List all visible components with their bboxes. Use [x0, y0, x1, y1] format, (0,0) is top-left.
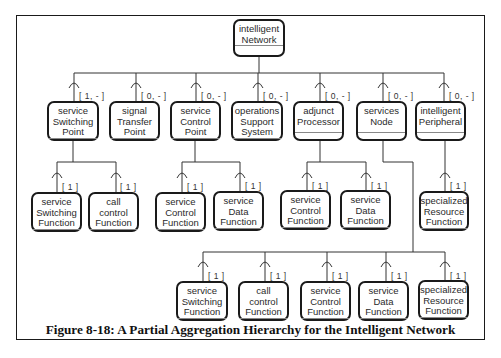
node-attributes — [233, 138, 281, 140]
node-label: adjunct Processor — [295, 103, 342, 132]
node-sn-service-switching-function[interactable]: service Switching Function — [176, 281, 228, 321]
node-ssp-call-control-function[interactable]: call control Function — [88, 192, 139, 232]
node-intelligent-network[interactable]: intelligent Network — [233, 19, 285, 57]
multiplicity-label: [ 1 ] — [332, 271, 349, 281]
node-service-control-point[interactable]: service Control Point — [170, 101, 221, 141]
node-label: service Data Function — [360, 283, 407, 318]
node-label: intelligent Peripheral — [417, 103, 464, 132]
node-label: signal Transfer Point — [111, 103, 158, 138]
node-sn-service-data-function[interactable]: service Data Function — [358, 281, 409, 321]
node-attributes — [358, 132, 405, 139]
node-sn-specialized-resource-function[interactable]: specialized Resource Function — [418, 280, 469, 320]
node-attributes — [417, 132, 464, 139]
figure-caption: Figure 8-18: A Partial Aggregation Hiera… — [16, 322, 485, 338]
multiplicity-label: [ 0, - ] — [141, 91, 167, 101]
multiplicity-label: [ 0, - ] — [325, 91, 351, 101]
node-label: specialized Resource Function — [421, 193, 467, 228]
node-attributes — [295, 132, 342, 139]
node-ap-service-control-function[interactable]: service Control Function — [280, 190, 331, 230]
node-attributes — [111, 138, 158, 140]
node-attributes — [33, 229, 80, 231]
node-label: service Control Function — [302, 283, 349, 318]
node-service-switching-point[interactable]: service Switching Point — [47, 101, 99, 141]
node-label: operations Support System — [233, 103, 281, 138]
node-label: service Switching Function — [33, 194, 80, 229]
node-attributes — [215, 228, 262, 230]
node-attributes — [49, 138, 97, 140]
node-intelligent-peripheral[interactable]: intelligent Peripheral — [415, 101, 466, 141]
node-attributes — [172, 138, 219, 140]
multiplicity-label: [ 1 ] — [208, 271, 225, 281]
multiplicity-label: [ 1 ] — [270, 271, 287, 281]
node-label: service Switching Point — [49, 103, 97, 138]
multiplicity-label: [ 0, - ] — [201, 91, 227, 101]
node-operations-support-system[interactable]: operations Support System — [231, 101, 283, 141]
node-ap-service-data-function[interactable]: service Data Function — [340, 190, 391, 230]
node-attributes — [240, 318, 287, 320]
node-label: specialized Resource Function — [420, 282, 467, 317]
node-attributes — [342, 227, 389, 229]
node-label: service Data Function — [342, 192, 389, 227]
node-label: service Control Point — [172, 103, 219, 138]
node-scp-service-control-function[interactable]: service Control Function — [155, 192, 206, 232]
node-scp-service-data-function[interactable]: service Data Function — [213, 191, 264, 231]
node-signal-transfer-point[interactable]: signal Transfer Point — [109, 101, 160, 141]
node-label: call control Function — [90, 194, 137, 229]
node-attributes — [157, 229, 204, 231]
node-attributes — [420, 317, 467, 319]
multiplicity-label: [ 0, - ] — [263, 91, 289, 101]
multiplicity-label: [ 1 ] — [450, 181, 467, 191]
node-label: service Switching Function — [178, 283, 226, 318]
multiplicity-label: [ 1 ] — [62, 182, 79, 192]
multiplicity-label: [ 1, - ] — [79, 91, 105, 101]
node-attributes — [421, 228, 467, 230]
node-label: intelligent Network — [235, 21, 283, 45]
node-label: services Node — [358, 103, 405, 132]
node-attributes — [178, 318, 226, 320]
multiplicity-label: [ 1 ] — [187, 182, 204, 192]
multiplicity-label: [ 0, - ] — [388, 91, 414, 101]
node-attributes — [360, 318, 407, 320]
multiplicity-label: [ 0, - ] — [449, 91, 475, 101]
node-adjunct-processor[interactable]: adjunct Processor — [293, 101, 344, 141]
node-ip-specialized-resource-function[interactable]: specialized Resource Function — [419, 191, 469, 231]
node-sn-service-control-function[interactable]: service Control Function — [300, 281, 351, 321]
multiplicity-label: [ 1 ] — [391, 271, 408, 281]
node-sn-call-control-function[interactable]: call control Function — [238, 281, 289, 321]
node-services-node[interactable]: services Node — [356, 101, 407, 141]
node-attributes — [90, 229, 137, 231]
node-label: call control Function — [240, 283, 287, 318]
multiplicity-label: [ 1 ] — [245, 181, 262, 191]
multiplicity-label: [ 1 ] — [120, 182, 137, 192]
node-label: service Data Function — [215, 193, 262, 228]
node-ssp-service-switching-function[interactable]: service Switching Function — [31, 192, 82, 232]
node-attributes — [235, 45, 283, 55]
node-label: service Control Function — [157, 194, 204, 229]
node-attributes — [302, 318, 349, 320]
node-attributes — [282, 227, 329, 229]
node-label: service Control Function — [282, 192, 329, 227]
